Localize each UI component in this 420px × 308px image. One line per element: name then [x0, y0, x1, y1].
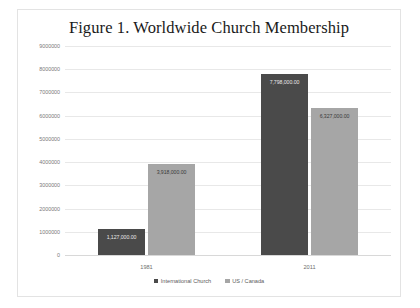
chart-title: Figure 1. Worldwide Church Membership — [18, 18, 400, 38]
y-axis-tick-label: 5000000 — [39, 136, 60, 142]
legend-item-international-church[interactable]: International Church — [154, 278, 211, 284]
legend-label: International Church — [161, 278, 211, 284]
x-axis-category-label: 1981 — [140, 264, 152, 270]
legend-item-us-canada[interactable]: US / Canada — [225, 278, 264, 284]
axis-baseline — [65, 255, 391, 256]
legend-label: US / Canada — [232, 278, 264, 284]
bar-value-label: 7,798,000.00 — [270, 79, 300, 85]
bar-1981-us-canada[interactable]: 3,918,000.00 — [148, 164, 195, 255]
y-axis-tick-label: 4000000 — [39, 159, 60, 165]
bar-2011-international-church[interactable]: 7,798,000.00 — [261, 74, 308, 255]
legend-swatch-icon — [154, 279, 159, 284]
bar-1981-international-church[interactable]: 1,127,000.00 — [98, 229, 145, 255]
bar-value-label: 6,327,000.00 — [320, 113, 350, 119]
chart-legend: International ChurchUS / Canada — [18, 278, 400, 284]
y-axis-tick-label: 1000000 — [39, 229, 60, 235]
plot-area: 0100000020000003000000400000050000006000… — [65, 46, 391, 255]
chart-container: Figure 1. Worldwide Church Membership 01… — [17, 9, 401, 297]
y-axis-tick-label: 0 — [57, 252, 60, 258]
y-axis-tick-label: 8000000 — [39, 66, 60, 72]
y-axis-tick-label: 7000000 — [39, 89, 60, 95]
bar-value-label: 1,127,000.00 — [107, 234, 137, 240]
y-axis-tick-label: 2000000 — [39, 206, 60, 212]
bar-2011-us-canada[interactable]: 6,327,000.00 — [311, 108, 358, 255]
y-axis-tick-label: 9000000 — [39, 43, 60, 49]
bar-value-label: 3,918,000.00 — [157, 169, 187, 175]
bars-layer: 1,127,000.003,918,000.007,798,000.006,32… — [65, 46, 391, 255]
y-axis-tick-label: 3000000 — [39, 182, 60, 188]
y-axis-tick-label: 6000000 — [39, 113, 60, 119]
x-axis-category-label: 2011 — [303, 264, 315, 270]
legend-swatch-icon — [225, 279, 230, 284]
